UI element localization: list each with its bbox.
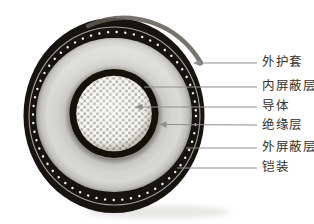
label-outer-shield: 外屏蔽层 [262, 140, 314, 155]
label-inner-shield: 内屏蔽层 [262, 79, 314, 94]
label-insulation: 绝缘层 [262, 118, 303, 133]
leader-line-insulation [166, 125, 258, 126]
label-conductor: 导体 [262, 99, 289, 114]
label-armor: 铠装 [262, 160, 289, 175]
cable-diagram-stage: 外护套 内屏蔽层 导体 绝缘层 外屏蔽层 铠装 [0, 0, 314, 224]
arrow-icon-outer-sheath [193, 60, 201, 66]
label-outer-sheath: 外护套 [262, 55, 303, 70]
conductor-shading [76, 76, 152, 152]
